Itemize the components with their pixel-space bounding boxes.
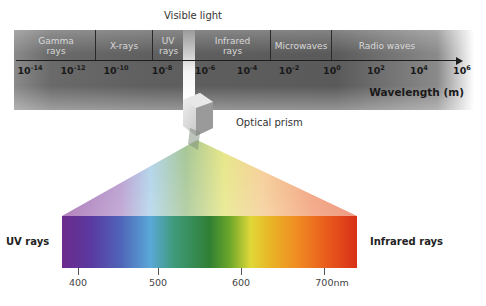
nm-tick-mark <box>241 268 242 275</box>
nm-tick-label: 400 <box>69 277 87 288</box>
nm-tick-label: 500 <box>149 277 167 288</box>
infrared-rays-label: Infrared rays <box>370 236 443 247</box>
nm-tick-mark <box>158 268 159 275</box>
nm-tick-label: 600 <box>232 277 250 288</box>
visible-spectrum-bar <box>62 216 357 268</box>
optical-prism-label: Optical prism <box>236 117 303 128</box>
nm-tick-mark <box>78 268 79 275</box>
nm-tick-mark <box>324 268 325 275</box>
uv-rays-label: UV rays <box>6 236 49 247</box>
nm-tick-label: 700nm <box>315 277 348 288</box>
light-cone-shade <box>62 140 357 216</box>
